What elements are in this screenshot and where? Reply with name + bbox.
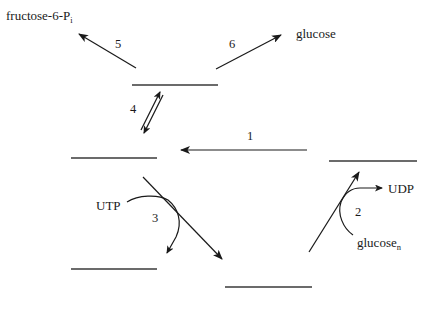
fructose-6-phosphate-label: fructose-6-Pi: [6, 8, 73, 25]
reaction-4-arrow-up: [141, 92, 160, 130]
reaction-1-label: 1: [247, 129, 253, 143]
reaction-6-label: 6: [229, 37, 235, 51]
reaction-2-label: 2: [355, 205, 361, 219]
glucose-n-label: glucosen: [357, 235, 402, 252]
reaction-4-label: 4: [130, 102, 137, 116]
reaction-6-arrow: [216, 35, 281, 69]
reaction-5-arrow: [79, 34, 136, 68]
reaction-5-label: 5: [115, 37, 121, 51]
utp-label: UTP: [96, 198, 121, 213]
glucose-label: glucose: [296, 26, 336, 41]
udp-label: UDP: [388, 181, 414, 196]
reaction-4-arrow-down: [144, 95, 163, 133]
reaction-3-label: 3: [152, 211, 158, 225]
reaction-2-arrow: [309, 172, 359, 252]
glycogen-pathway-diagram: 5 6 fructose-6-Pi glucose 4 1 UTP 3 UDP …: [0, 0, 444, 309]
